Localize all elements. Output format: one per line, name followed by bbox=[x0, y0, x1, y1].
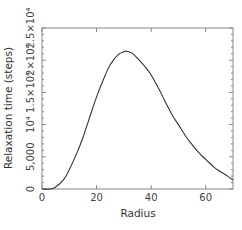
y-tick-label: 5,000 bbox=[25, 142, 36, 171]
x-tick-label: 0 bbox=[39, 192, 45, 203]
y-tick-label: 0 bbox=[25, 186, 36, 192]
x-tick-label: 20 bbox=[90, 192, 103, 203]
y-tick-label: 10⁴ bbox=[25, 116, 36, 133]
y-tick-label: 2.5×10⁴ bbox=[25, 7, 36, 48]
relaxation-time-chart: 020406005,00010⁴1.5×10⁴2×10⁴2.5×10⁴ Radi… bbox=[0, 0, 242, 230]
relaxation-curve bbox=[42, 51, 233, 189]
y-tick-label: 1.5×10⁴ bbox=[25, 72, 36, 113]
y-axis-label: Relaxation time (steps) bbox=[2, 47, 14, 169]
x-axis-label: Radius bbox=[120, 207, 155, 219]
plot-area bbox=[42, 28, 233, 189]
x-tick-label: 60 bbox=[199, 192, 212, 203]
x-tick-label: 40 bbox=[145, 192, 158, 203]
